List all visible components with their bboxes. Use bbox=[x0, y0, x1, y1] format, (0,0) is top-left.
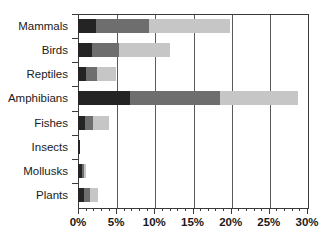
stacked-bar-chart: MammalsBirdsReptilesAmphibiansFishesInse… bbox=[0, 0, 327, 238]
stacked-bar bbox=[78, 43, 170, 57]
x-axis-label-10%: 10% bbox=[143, 216, 166, 228]
x-axis-tick-major bbox=[116, 208, 117, 214]
stacked-bar bbox=[78, 19, 230, 33]
bar-row-fishes bbox=[78, 111, 307, 135]
x-axis-tick-minor bbox=[124, 208, 125, 211]
bar-row-mollusks bbox=[78, 159, 307, 183]
stacked-bar bbox=[78, 164, 86, 178]
x-axis-label-30%: 30% bbox=[295, 216, 318, 228]
x-axis-tick-major bbox=[193, 208, 194, 214]
stacked-bar bbox=[78, 67, 116, 81]
x-axis-tick-minor bbox=[299, 208, 300, 211]
x-axis-tick-minor bbox=[170, 208, 171, 211]
bar-segment-series-1 bbox=[78, 140, 80, 154]
x-axis-label-5%: 5% bbox=[108, 216, 125, 228]
bar-segment-series-2 bbox=[92, 43, 119, 57]
x-axis-tick-minor bbox=[254, 208, 255, 211]
y-axis-label-birds: Birds bbox=[42, 38, 68, 62]
bar-row-reptiles bbox=[78, 62, 307, 86]
x-axis-labels: 0%5%10%15%20%25%30% bbox=[0, 216, 327, 234]
x-axis-tick-major bbox=[78, 208, 79, 214]
x-axis-tick-major bbox=[231, 208, 232, 214]
bar-segment-series-3 bbox=[119, 43, 169, 57]
bars-container bbox=[78, 14, 307, 207]
bar-segment-series-2 bbox=[86, 67, 97, 81]
bar-row-amphibians bbox=[78, 86, 307, 110]
bar-segment-series-3 bbox=[84, 164, 86, 178]
bar-segment-series-3 bbox=[149, 19, 230, 33]
bar-segment-series-1 bbox=[78, 116, 85, 130]
x-axis-tick-minor bbox=[238, 208, 239, 211]
x-axis-label-0%: 0% bbox=[70, 216, 87, 228]
bar-segment-series-3 bbox=[90, 188, 98, 202]
bar-segment-series-3 bbox=[97, 67, 116, 81]
y-axis: MammalsBirdsReptilesAmphibiansFishesInse… bbox=[0, 14, 74, 207]
bar-segment-series-1 bbox=[78, 67, 86, 81]
x-axis-tick-minor bbox=[246, 208, 247, 211]
stacked-bar bbox=[78, 91, 298, 105]
x-axis-tick-minor bbox=[208, 208, 209, 211]
bar-segment-series-3 bbox=[93, 116, 108, 130]
bar-segment-series-1 bbox=[78, 43, 92, 57]
stacked-bar bbox=[78, 188, 98, 202]
x-axis-tick-minor bbox=[101, 208, 102, 211]
y-axis-label-mollusks: Mollusks bbox=[23, 159, 68, 183]
x-axis-tick-minor bbox=[284, 208, 285, 211]
bar-segment-series-2 bbox=[96, 19, 149, 33]
stacked-bar bbox=[78, 116, 109, 130]
y-axis-label-reptiles: Reptiles bbox=[26, 62, 68, 86]
x-axis-tick-minor bbox=[147, 208, 148, 211]
bar-segment-series-2 bbox=[130, 91, 220, 105]
y-axis-label-amphibians: Amphibians bbox=[8, 86, 68, 110]
x-axis-tick-minor bbox=[276, 208, 277, 211]
bar-segment-series-2 bbox=[85, 116, 93, 130]
y-axis-label-plants: Plants bbox=[36, 183, 68, 207]
x-axis-tick-minor bbox=[223, 208, 224, 211]
x-axis-tick-major bbox=[154, 208, 155, 214]
bar-segment-series-1 bbox=[78, 19, 96, 33]
x-axis-tick-minor bbox=[162, 208, 163, 211]
x-axis-tick-minor bbox=[177, 208, 178, 211]
bar-row-plants bbox=[78, 183, 307, 207]
bar-segment-series-1 bbox=[78, 91, 130, 105]
x-axis-label-25%: 25% bbox=[257, 216, 280, 228]
x-axis-tick-minor bbox=[86, 208, 87, 211]
x-axis-tick-major bbox=[269, 208, 270, 214]
x-axis-tick-major bbox=[307, 208, 308, 214]
x-axis-tick-minor bbox=[139, 208, 140, 211]
bar-segment-series-3 bbox=[220, 91, 298, 105]
y-axis-label-fishes: Fishes bbox=[34, 111, 68, 135]
y-axis-label-mammals: Mammals bbox=[18, 14, 68, 38]
x-axis-label-15%: 15% bbox=[181, 216, 204, 228]
bar-row-mammals bbox=[78, 14, 307, 38]
y-axis-label-insects: Insects bbox=[32, 135, 68, 159]
x-axis-tick-minor bbox=[215, 208, 216, 211]
stacked-bar bbox=[78, 140, 80, 154]
x-axis-tick-minor bbox=[200, 208, 201, 211]
bar-row-insects bbox=[78, 135, 307, 159]
x-axis-tick-minor bbox=[261, 208, 262, 211]
x-axis-label-20%: 20% bbox=[219, 216, 242, 228]
x-axis-tick-minor bbox=[131, 208, 132, 211]
x-axis-tick-minor bbox=[292, 208, 293, 211]
x-axis-ticks bbox=[78, 208, 308, 216]
bar-row-birds bbox=[78, 38, 307, 62]
x-axis-tick-minor bbox=[93, 208, 94, 211]
x-axis-tick-minor bbox=[109, 208, 110, 211]
x-axis-tick-minor bbox=[185, 208, 186, 211]
